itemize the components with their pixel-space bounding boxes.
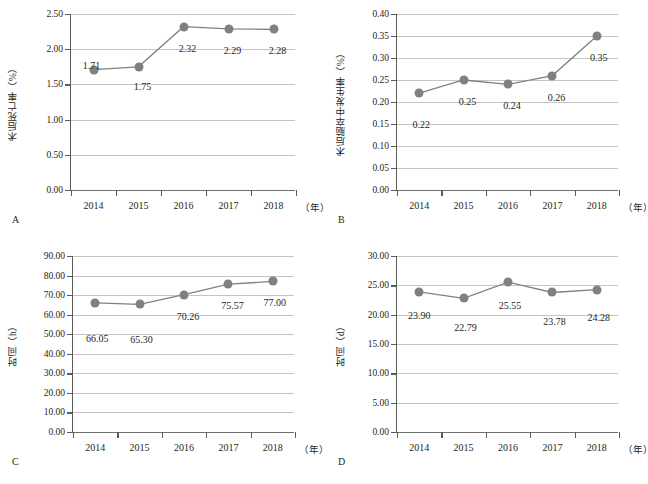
panel-letter: C bbox=[12, 456, 19, 467]
y-axis-tick-label: 10.00 bbox=[368, 368, 389, 378]
gridline bbox=[397, 432, 618, 433]
x-axis-tick bbox=[251, 432, 252, 438]
data-point-marker bbox=[91, 298, 100, 307]
y-axis-tick-label: 60.00 bbox=[44, 310, 65, 320]
y-axis-tick-label: 5.00 bbox=[372, 398, 389, 408]
data-point-marker bbox=[135, 300, 144, 309]
data-point-marker bbox=[224, 280, 233, 289]
panel-letter: B bbox=[338, 214, 345, 225]
x-axis-tick-label: 2014 bbox=[409, 200, 429, 211]
data-point-marker bbox=[180, 290, 189, 299]
plot-area: 0.000.501.001.502.002.502014201520162017… bbox=[70, 14, 295, 190]
y-axis-tick-label: 50.00 bbox=[44, 329, 65, 339]
x-axis-tick-label: 2017 bbox=[219, 200, 239, 211]
gridline bbox=[397, 190, 618, 191]
data-point-label: 1.75 bbox=[134, 81, 152, 92]
y-axis-tick-label: 80.00 bbox=[44, 271, 65, 281]
x-axis-unit-label: （年） bbox=[623, 200, 648, 214]
data-point-label: 23.78 bbox=[543, 316, 566, 327]
x-axis-tick bbox=[206, 432, 207, 438]
data-point-marker bbox=[504, 80, 513, 89]
data-point-marker bbox=[592, 285, 601, 294]
y-axis-tick-label: 0.00 bbox=[372, 185, 389, 195]
x-axis-tick-label: 2015 bbox=[130, 442, 150, 453]
x-axis-tick-label: 2016 bbox=[498, 200, 518, 211]
data-point-marker bbox=[415, 287, 424, 296]
y-axis-tick-label: 0.25 bbox=[372, 75, 389, 85]
data-point-marker bbox=[224, 24, 233, 33]
data-point-marker bbox=[268, 277, 277, 286]
y-axis-tick-label: 20.00 bbox=[44, 388, 65, 398]
y-axis-tick-label: 40.00 bbox=[44, 349, 65, 359]
y-axis-tick-label: 2.00 bbox=[46, 44, 63, 54]
x-axis-tick bbox=[73, 432, 74, 438]
plot-area: 0.000.050.100.150.200.250.300.350.402014… bbox=[396, 14, 618, 190]
data-point-label: 24.28 bbox=[588, 312, 611, 323]
x-axis-tick bbox=[295, 432, 296, 438]
data-point-marker bbox=[459, 294, 468, 303]
y-axis-tick-label: 70.00 bbox=[44, 290, 65, 300]
x-axis-tick bbox=[486, 432, 487, 438]
x-axis-tick-label: 2016 bbox=[498, 442, 518, 453]
x-axis-tick bbox=[441, 432, 442, 438]
y-axis-tick-label: 0.10 bbox=[372, 141, 389, 151]
x-axis-tick bbox=[486, 190, 487, 196]
y-axis-tick-label: 0.40 bbox=[372, 9, 389, 19]
x-axis-tick bbox=[116, 190, 117, 196]
x-axis-unit-label: （年） bbox=[623, 442, 648, 456]
x-axis-tick-label: 2018 bbox=[587, 442, 607, 453]
x-axis-tick bbox=[575, 432, 576, 438]
y-axis-tick-label: 30.00 bbox=[44, 368, 65, 378]
data-point-label: 0.25 bbox=[459, 96, 477, 107]
data-point-marker bbox=[179, 22, 188, 31]
data-point-label: 2.28 bbox=[269, 45, 287, 56]
x-axis-tick bbox=[117, 432, 118, 438]
plot-area: 0.0010.0020.0030.0040.0050.0060.0070.008… bbox=[72, 256, 294, 432]
y-axis-title: 术后死亡率（%） bbox=[4, 14, 22, 190]
data-point-label: 2.29 bbox=[224, 45, 242, 56]
y-axis-tick-label: 0.15 bbox=[372, 119, 389, 129]
panel-letter: D bbox=[338, 456, 345, 467]
data-point-label: 66.05 bbox=[86, 333, 109, 344]
y-axis-tick-label: 0.35 bbox=[372, 31, 389, 41]
figure-panel-grid: 术后死亡率（%）0.000.501.001.502.002.5020142015… bbox=[0, 0, 648, 484]
data-point-label: 77.00 bbox=[264, 297, 287, 308]
series-line bbox=[71, 14, 296, 190]
x-axis-tick-label: 2016 bbox=[174, 442, 194, 453]
data-point-label: 0.35 bbox=[590, 52, 608, 63]
x-axis-tick bbox=[296, 190, 297, 196]
x-axis-tick-label: 2014 bbox=[409, 442, 429, 453]
x-axis-tick bbox=[575, 190, 576, 196]
x-axis-tick-label: 2018 bbox=[264, 200, 284, 211]
data-point-marker bbox=[548, 71, 557, 80]
x-axis-tick-label: 2016 bbox=[174, 200, 194, 211]
y-axis-tick-label: 0.20 bbox=[372, 97, 389, 107]
y-axis-tick-label: 1.00 bbox=[46, 115, 63, 125]
chart-panel-c: 时间（h）0.0010.0020.0030.0040.0050.0060.007… bbox=[0, 242, 324, 484]
y-axis-tick-label: 0.30 bbox=[372, 53, 389, 63]
chart-panel-a: 术后死亡率（%）0.000.501.001.502.002.5020142015… bbox=[0, 0, 324, 242]
data-point-label: 25.55 bbox=[499, 300, 522, 311]
x-axis-tick-label: 2018 bbox=[587, 200, 607, 211]
data-point-label: 65.30 bbox=[130, 334, 153, 345]
panel-letter: A bbox=[12, 214, 19, 225]
y-axis-tick-label: 15.00 bbox=[368, 339, 389, 349]
data-point-label: 2.32 bbox=[179, 43, 197, 54]
data-point-label: 23.90 bbox=[408, 310, 431, 321]
data-point-label: 22.79 bbox=[454, 322, 477, 333]
x-axis-tick-label: 2017 bbox=[542, 200, 562, 211]
x-axis-tick bbox=[162, 432, 163, 438]
y-axis-tick-label: 0.00 bbox=[46, 185, 63, 195]
plot-area: 0.005.0010.0015.0020.0025.0030.002014201… bbox=[396, 256, 618, 432]
y-axis-tick-label: 20.00 bbox=[368, 310, 389, 320]
x-axis-tick bbox=[397, 432, 398, 438]
y-axis-tick-label: 0.00 bbox=[372, 427, 389, 437]
data-point-marker bbox=[134, 62, 143, 71]
x-axis-tick bbox=[161, 190, 162, 196]
y-axis-tick-label: 25.00 bbox=[368, 280, 389, 290]
y-axis-title: 时间（d） bbox=[332, 256, 350, 432]
data-point-label: 75.57 bbox=[221, 300, 244, 311]
gridline bbox=[73, 432, 294, 433]
x-axis-tick bbox=[530, 432, 531, 438]
y-axis-tick-label: 30.00 bbox=[368, 251, 389, 261]
